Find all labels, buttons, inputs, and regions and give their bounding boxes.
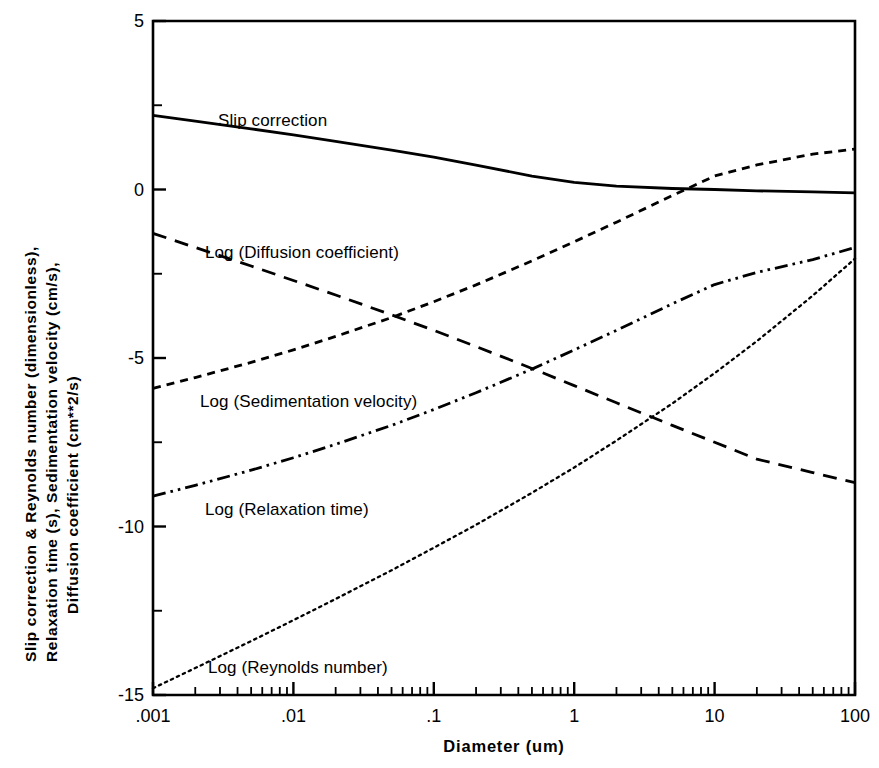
x-tick-label: 100 — [840, 706, 870, 727]
y-tick-label: 0 — [134, 179, 144, 200]
x-tick-label: .1 — [426, 706, 441, 727]
y-tick-label: -15 — [118, 685, 144, 706]
x-tick-label: .001 — [135, 706, 170, 727]
series-line-log-relaxation-time — [153, 247, 855, 496]
y-axis-tick-labels: 50-5-10-15 — [96, 0, 144, 768]
series-line-log-diffusion-coefficient — [153, 233, 855, 482]
y-axis-title: Slip correction & Reynolds number (dimen… — [0, 0, 80, 768]
y-axis-title-line-1: Slip correction & Reynolds number (dimen… — [22, 246, 40, 662]
x-tick-label: .01 — [281, 706, 306, 727]
series-annotation-label: Log (Reynolds number) — [208, 658, 388, 678]
series-annotation-label: Log (Sedimentation velocity) — [200, 392, 417, 412]
y-axis-title-line-2: Relaxation time (s), Sedimentation veloc… — [43, 262, 61, 662]
y-tick-label: -5 — [128, 348, 144, 369]
series-line-log-sedimentation-velocity — [153, 149, 855, 388]
chart-figure: Slip correction & Reynolds number (dimen… — [0, 0, 879, 768]
series-annotation-label: Log (Relaxation time) — [205, 500, 369, 520]
series-annotation-label: Slip correction — [218, 111, 327, 131]
x-tick-label: 1 — [569, 706, 579, 727]
y-tick-label: 5 — [134, 11, 144, 32]
x-axis-tick-labels: .001.01.1110100 — [0, 706, 879, 732]
y-tick-label: -10 — [118, 516, 144, 537]
series-annotation-label: Log (Diffusion coefficient) — [205, 243, 399, 263]
x-tick-label: 10 — [705, 706, 725, 727]
series-line-log-reynolds-number — [153, 259, 855, 689]
x-axis-title: Diameter (um) — [153, 737, 855, 756]
y-axis-title-line-3: Diffusion coefficient (cm**2/s) — [64, 376, 82, 614]
